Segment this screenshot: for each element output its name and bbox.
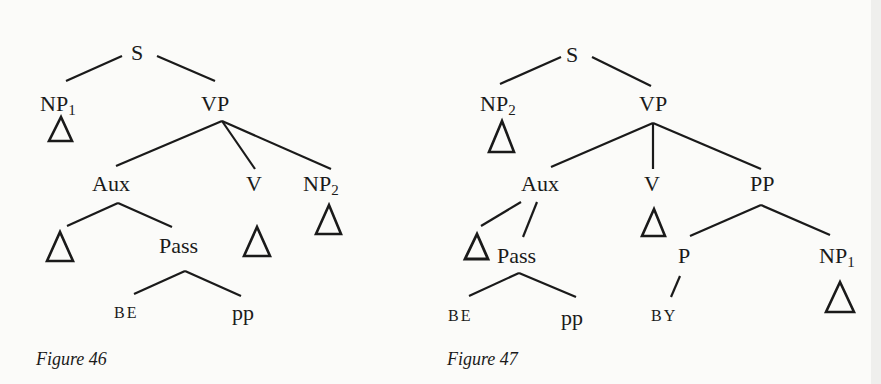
node-Aux: Aux bbox=[521, 173, 559, 195]
node-NP1-label: NP bbox=[40, 91, 68, 116]
node-V: V bbox=[246, 173, 262, 195]
node-BE: BE bbox=[114, 305, 138, 321]
node-V: V bbox=[644, 173, 660, 195]
node-Pass: Pass bbox=[497, 245, 536, 267]
node-NP2-label: NP bbox=[303, 171, 331, 196]
node-Aux: Aux bbox=[92, 173, 130, 195]
node-NP2: NP2 bbox=[303, 173, 339, 198]
node-NP2-label: NP bbox=[480, 91, 508, 116]
node-VP: VP bbox=[639, 93, 667, 115]
node-pp: pp bbox=[232, 302, 254, 324]
node-NP2-subscript: 2 bbox=[331, 182, 339, 198]
node-S: S bbox=[131, 42, 143, 64]
node-P: P bbox=[678, 245, 690, 267]
node-PP: PP bbox=[750, 173, 774, 195]
node-NP1-subscript: 1 bbox=[68, 102, 76, 118]
figure-caption: Figure 47 bbox=[447, 349, 518, 370]
node-BY: BY bbox=[651, 308, 677, 324]
figure-caption: Figure 46 bbox=[36, 349, 107, 370]
node-S: S bbox=[566, 44, 578, 66]
node-NP1: NP1 bbox=[819, 245, 855, 270]
node-NP1: NP1 bbox=[40, 93, 76, 118]
node-NP1-label: NP bbox=[819, 243, 847, 268]
node-Pass: Pass bbox=[159, 235, 198, 257]
node-VP: VP bbox=[201, 93, 229, 115]
node-NP2-subscript: 2 bbox=[508, 102, 516, 118]
node-BE: BE bbox=[448, 308, 472, 324]
node-NP1-subscript: 1 bbox=[847, 254, 855, 270]
node-pp: pp bbox=[561, 307, 583, 329]
node-NP2: NP2 bbox=[480, 93, 516, 118]
